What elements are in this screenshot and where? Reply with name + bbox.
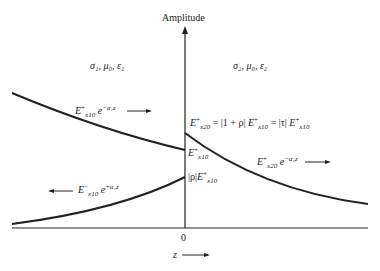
transmitted-amplitude-equation: E+x20 = |1 + ρ| E+x10 = |τ| E+x10 xyxy=(190,118,309,128)
origin-label: 0 xyxy=(181,233,186,243)
region-2-params: σ₂, μ₀, ε₂ xyxy=(233,61,267,71)
reflected-sub: x10 xyxy=(88,190,98,198)
amplitude-axis-label: Amplitude xyxy=(162,13,205,23)
diagram-canvas xyxy=(0,0,380,271)
transmitted-exp-sup: −α₂z xyxy=(284,155,298,163)
reflected-amplitude-label: |ρ|E+x10 xyxy=(188,172,217,182)
incident-amplitude-label: E+x10 xyxy=(188,148,208,158)
incident-exp-sup: −α₁z xyxy=(102,104,116,112)
incident-wave-label: E+x10 e−α₁z xyxy=(75,106,116,116)
transmitted-sub: x20 xyxy=(267,162,277,170)
incident-amp-sub: x10 xyxy=(198,153,208,161)
reflected-exp-sup: +α₁z xyxy=(105,183,119,191)
z-arrowhead-icon xyxy=(204,253,210,257)
incident-arrowhead-icon xyxy=(146,109,152,113)
incident-wave-curve xyxy=(12,93,185,150)
incident-sub: x10 xyxy=(85,111,95,119)
transmitted-arrowhead-icon xyxy=(325,160,331,164)
reflected-prefix: |ρ| xyxy=(188,171,197,182)
z-axis-label: z xyxy=(173,250,177,260)
equation-part-2: = |τ| xyxy=(271,117,287,128)
region-1-params: σ₁, μ₀, ε₁ xyxy=(90,61,124,71)
reflected-arrowhead-icon xyxy=(48,189,54,193)
amplitude-axis-arrow-icon xyxy=(182,26,188,34)
equation-part-1: = |1 + ρ| xyxy=(213,117,246,128)
transmitted-wave-label: E+x20 e−α₂z xyxy=(257,157,298,167)
reflected-wave-label: E−x10 e+α₁z xyxy=(78,185,119,195)
